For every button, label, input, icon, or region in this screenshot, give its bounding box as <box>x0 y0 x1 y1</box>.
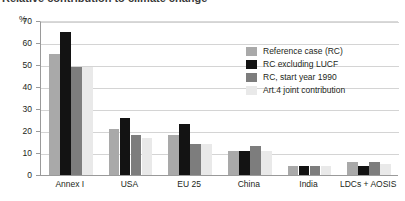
y-tick-mark <box>36 87 40 88</box>
legend-swatch <box>246 86 257 95</box>
bar-group <box>109 21 153 175</box>
y-tick-label: 30 <box>2 105 32 113</box>
x-category-label: Annex I <box>40 179 100 189</box>
y-tick-mark <box>36 175 40 176</box>
bar <box>142 138 153 175</box>
bar <box>288 166 299 175</box>
bar <box>310 166 321 175</box>
bar <box>358 166 369 175</box>
bar <box>261 151 272 175</box>
chart-title-clipped: Relative contribution to climate change <box>0 0 405 4</box>
y-tick-mark <box>36 131 40 132</box>
bar <box>201 144 212 175</box>
bar <box>49 54 60 175</box>
x-category-label: EU 25 <box>159 179 219 189</box>
bar <box>369 162 380 175</box>
y-tick-label: 70 <box>2 17 32 25</box>
bar <box>190 144 201 175</box>
x-category-label: USA <box>100 179 160 189</box>
bar <box>239 151 250 175</box>
x-axis-line <box>40 175 398 176</box>
legend-item: Reference case (RC) <box>246 45 345 57</box>
bar <box>299 166 310 175</box>
legend-item: Art.4 joint contribution <box>246 84 345 96</box>
bar <box>109 129 120 175</box>
chart-legend: Reference case (RC)RC excluding LUCFRC, … <box>246 45 345 97</box>
legend-label: RC excluding LUCF <box>263 60 338 69</box>
legend-swatch <box>246 60 257 69</box>
x-category-label: China <box>219 179 279 189</box>
legend-item: RC, start year 1990 <box>246 71 345 83</box>
bar <box>321 166 332 175</box>
y-tick-mark <box>36 109 40 110</box>
y-tick-mark <box>36 21 40 22</box>
bar-group <box>49 21 93 175</box>
bar <box>380 164 391 175</box>
legend-swatch <box>246 73 257 82</box>
bar <box>168 135 179 175</box>
bar-group <box>168 21 212 175</box>
bar <box>82 67 93 175</box>
x-category-label: LDCs + AOSIS <box>338 179 398 189</box>
bar <box>179 124 190 175</box>
y-tick-mark <box>36 65 40 66</box>
bar <box>71 67 82 175</box>
y-tick-label: 20 <box>2 127 32 135</box>
legend-label: Art.4 joint contribution <box>263 86 345 95</box>
bar <box>250 146 261 175</box>
legend-label: RC, start year 1990 <box>263 73 337 82</box>
legend-swatch <box>246 47 257 56</box>
bar <box>347 162 358 175</box>
y-tick-mark <box>36 153 40 154</box>
y-tick-mark <box>36 43 40 44</box>
legend-label: Reference case (RC) <box>263 47 343 56</box>
chart-title: Relative contribution to climate change <box>0 0 405 4</box>
bar-chart: Relative contribution to climate change … <box>0 0 405 201</box>
bar <box>60 32 71 175</box>
x-category-label: India <box>279 179 339 189</box>
y-tick-label: 50 <box>2 61 32 69</box>
bar <box>228 151 239 175</box>
y-tick-label: 60 <box>2 39 32 47</box>
bar <box>120 118 131 175</box>
bar <box>131 135 142 175</box>
y-tick-label: 10 <box>2 149 32 157</box>
legend-item: RC excluding LUCF <box>246 58 345 70</box>
y-tick-label: 0 <box>2 171 32 179</box>
y-tick-label: 40 <box>2 83 32 91</box>
bar-group <box>347 21 391 175</box>
